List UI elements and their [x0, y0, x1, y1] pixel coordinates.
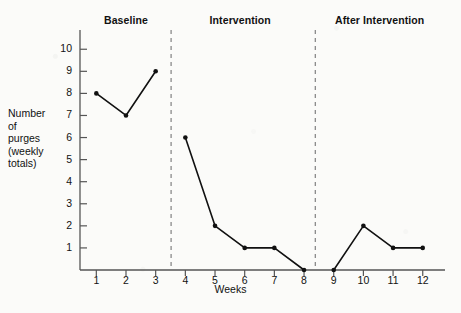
y-tick-label: 9	[54, 64, 72, 76]
data-point	[153, 69, 158, 74]
x-tick-label: 4	[176, 274, 194, 286]
y-tick-label: 3	[54, 197, 72, 209]
x-tick-label: 11	[384, 274, 402, 286]
x-tick-label: 1	[87, 274, 105, 286]
x-tick-label: 12	[414, 274, 432, 286]
data-point	[272, 246, 277, 251]
data-point	[213, 224, 218, 229]
y-tick-label: 8	[54, 86, 72, 98]
data-point	[331, 268, 336, 273]
y-tick-label: 6	[54, 131, 72, 143]
phase-dividers	[171, 30, 315, 270]
x-tick-label: 9	[325, 274, 343, 286]
data-point	[94, 91, 99, 96]
y-tick-label: 5	[54, 153, 72, 165]
data-series-purges	[94, 69, 425, 272]
x-tick-label: 6	[236, 274, 254, 286]
x-tick-label: 8	[295, 274, 313, 286]
data-point	[124, 113, 129, 118]
x-tick-label: 10	[354, 274, 372, 286]
y-tick-label: 2	[54, 219, 72, 231]
data-point	[391, 246, 396, 251]
y-tick-label: 1	[54, 241, 72, 253]
chart-page: Baseline Intervention After Intervention…	[0, 0, 461, 313]
y-tick-label: 4	[54, 175, 72, 187]
data-point	[183, 135, 188, 140]
x-tick-label: 7	[265, 274, 283, 286]
data-point	[302, 268, 307, 273]
data-point	[420, 246, 425, 251]
x-tick-label: 5	[206, 274, 224, 286]
axes-group	[80, 30, 445, 276]
x-tick-label: 2	[117, 274, 135, 286]
x-tick-label: 3	[147, 274, 165, 286]
data-point	[242, 246, 247, 251]
y-tick-label: 7	[54, 108, 72, 120]
data-point	[361, 224, 366, 229]
y-tick-label: 10	[54, 42, 72, 54]
